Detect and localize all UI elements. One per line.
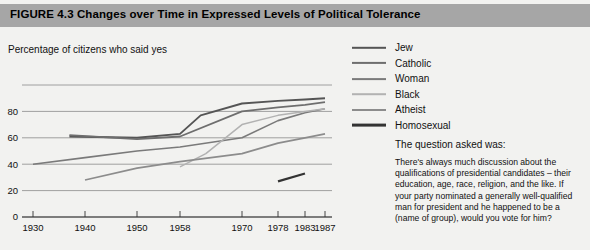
y-axis-tick-label: 40 xyxy=(7,159,18,170)
question-line: (name of group), would you vote for him? xyxy=(395,213,587,224)
data-series-group xyxy=(33,98,325,181)
legend-line-swatch xyxy=(352,105,386,115)
legend-item-catholic: Catholic xyxy=(352,56,582,72)
x-axis-tick-label: 1987 xyxy=(314,222,335,233)
legend-item-jew: Jew xyxy=(352,40,582,56)
y-axis-labels: 020406080 xyxy=(7,106,18,223)
x-axis-tick-label: 1978 xyxy=(267,222,288,233)
x-axis-tick-label: 1970 xyxy=(231,222,252,233)
y-axis-tick-label: 20 xyxy=(7,185,18,196)
x-axis-tick-label: 1950 xyxy=(126,222,147,233)
y-axis-tick-label: 80 xyxy=(7,106,18,117)
x-axis-tick-label: 1983 xyxy=(294,222,315,233)
figure-body: Percentage of citizens who said yes 0204… xyxy=(0,27,590,250)
question-line: qualifications of presidential candidate… xyxy=(395,168,587,179)
legend-item-atheist: Atheist xyxy=(352,102,582,118)
legend-item-label: Homosexual xyxy=(395,120,451,131)
legend-line-swatch xyxy=(352,74,386,84)
question-heading: The question asked was: xyxy=(395,139,587,150)
x-axis-labels: 19301940195019581970197819831987 xyxy=(22,222,335,233)
question-line: education, age, race, religion, and the … xyxy=(395,179,587,190)
x-axis-tick-label: 1958 xyxy=(169,222,190,233)
question-line: your party nominated a generally well-qu… xyxy=(395,191,587,202)
data-series-homosexual xyxy=(278,173,305,181)
legend-item-homosexual: Homosexual xyxy=(352,118,582,134)
y-axis-tick-label: 0 xyxy=(13,211,18,222)
question-body: There's always much discussion about the… xyxy=(395,157,587,224)
legend-item-black: Black xyxy=(352,87,582,103)
data-series-catholic xyxy=(69,102,325,139)
x-axis xyxy=(22,211,332,217)
legend-line-swatch xyxy=(352,120,386,130)
legend-item-label: Woman xyxy=(395,73,429,84)
legend-line-swatch xyxy=(352,43,386,53)
legend-item-label: Catholic xyxy=(395,58,431,69)
line-chart-plot: 020406080 193019401950195819701978198319… xyxy=(0,27,345,250)
legend-item-label: Jew xyxy=(395,42,413,53)
chart-legend: JewCatholicWomanBlackAtheistHomosexual xyxy=(352,40,582,133)
y-axis-tick-label: 60 xyxy=(7,132,18,143)
question-block: The question asked was: There's always m… xyxy=(395,139,587,224)
question-line: man for president and he happened to be … xyxy=(395,202,587,213)
question-line: There's always much discussion about the xyxy=(395,157,587,168)
legend-line-swatch xyxy=(352,89,386,99)
figure-title: FIGURE 4.3 Changes over Time in Expresse… xyxy=(10,8,421,20)
x-axis-tick-label: 1940 xyxy=(74,222,95,233)
legend-line-swatch xyxy=(352,58,386,68)
legend-item-woman: Woman xyxy=(352,71,582,87)
data-series-atheist xyxy=(85,134,325,180)
x-axis-tick-label: 1930 xyxy=(22,222,43,233)
figure-container: FIGURE 4.3 Changes over Time in Expresse… xyxy=(0,0,590,250)
legend-item-label: Atheist xyxy=(395,104,426,115)
gridlines xyxy=(22,85,332,217)
legend-item-label: Black xyxy=(395,89,419,100)
